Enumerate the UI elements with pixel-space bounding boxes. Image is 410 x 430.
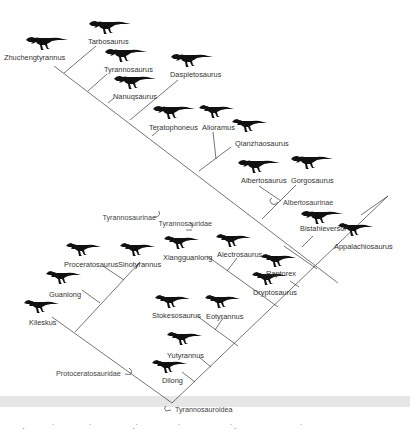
taxon-label-stokesosaurus: Stokesosaurus [152, 312, 201, 319]
clade-label-tyrannosauridae: Tyrannosauridae [158, 220, 212, 227]
taxon-label-proceratosaurus: Proceratosaurus [64, 261, 118, 268]
truncated-caption: · ˙ ˙ ·˙ ˙ ˙· ˙ [0, 424, 410, 430]
taxon-label-alioramus: Alioramus [202, 124, 235, 131]
taxon-label-nanuqsaurus: Nanuqsaurus [113, 93, 157, 100]
taxon-label-kileskus: Kileskus [29, 319, 57, 326]
taxon-label-gorgosaurus: Gorgosaurus [291, 177, 334, 184]
clade-label-albertosaurinae: Albertosaurinae [283, 199, 333, 206]
taxon-label-appalachiosaurus: Appalachiosaurus [334, 243, 393, 250]
taxon-label-teratophoneus: Teratophoneus [149, 124, 198, 131]
clade-label-tyrannosaurinae: Tyrannosaurinae [102, 214, 156, 221]
taxon-label-guanlong: Guanlong [49, 291, 81, 298]
taxon-label-dryptosaurus: Dryptosaurus [253, 289, 297, 296]
taxon-label-xiangguanlong: Xiangguanlong [163, 254, 212, 261]
clade-label-tyrannosauroidea: Tyrannosauroidea [175, 406, 233, 413]
cladogram-figure: Zhuchengtyrannus Tarbosaurus Tyrannosaur… [0, 0, 410, 430]
taxon-label-albertosaurus: Albertosaurus [241, 177, 287, 184]
taxon-label-qianzhaosaurus: Qianzhaosaurus [235, 140, 289, 147]
dinosaur-silhouettes [0, 0, 410, 430]
taxon-label-eotyrannus: Eotyrannus [206, 313, 243, 320]
taxon-label-zhuchengtyrannus: Zhuchengtyrannus [4, 54, 65, 61]
taxon-label-alectrosaurus: Alectrosaurus [217, 251, 262, 258]
taxon-label-sinotyrannus: Sinotyrannus [118, 261, 161, 268]
taxon-label-dilong: Dilong [162, 377, 183, 384]
taxon-label-bistahieversor: Bistahieversor [300, 225, 347, 232]
taxon-label-tyrannosaurus: Tyrannosaurus [104, 66, 153, 73]
taxon-label-daspletosaurus: Daspletosaurus [170, 71, 221, 78]
taxon-label-tarbosaurus: Tarbosaurus [88, 38, 129, 45]
taxon-label-raptorex: Raptorex [266, 270, 296, 277]
taxon-label-yutyrannus: Yutyrannus [167, 352, 204, 359]
clade-label-protoceratosauridae: Protoceratosauridae [56, 370, 121, 377]
